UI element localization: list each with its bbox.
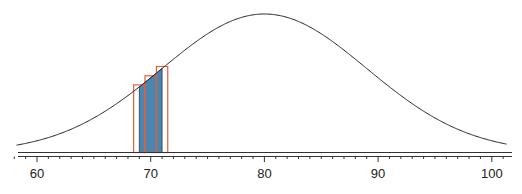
shaded-area	[139, 69, 162, 153]
x-tick-label: 90	[371, 166, 385, 181]
shaded-region	[139, 69, 162, 153]
x-axis-ticks	[14, 157, 503, 163]
normal-distribution-chart: 60708090100	[0, 0, 522, 194]
x-tick-label: 100	[481, 166, 503, 181]
x-tick-label: 60	[30, 166, 44, 181]
x-tick-label: 80	[257, 166, 271, 181]
x-axis-labels: 60708090100	[30, 166, 503, 181]
normal-curve	[17, 14, 507, 145]
x-tick-label: 70	[143, 166, 157, 181]
